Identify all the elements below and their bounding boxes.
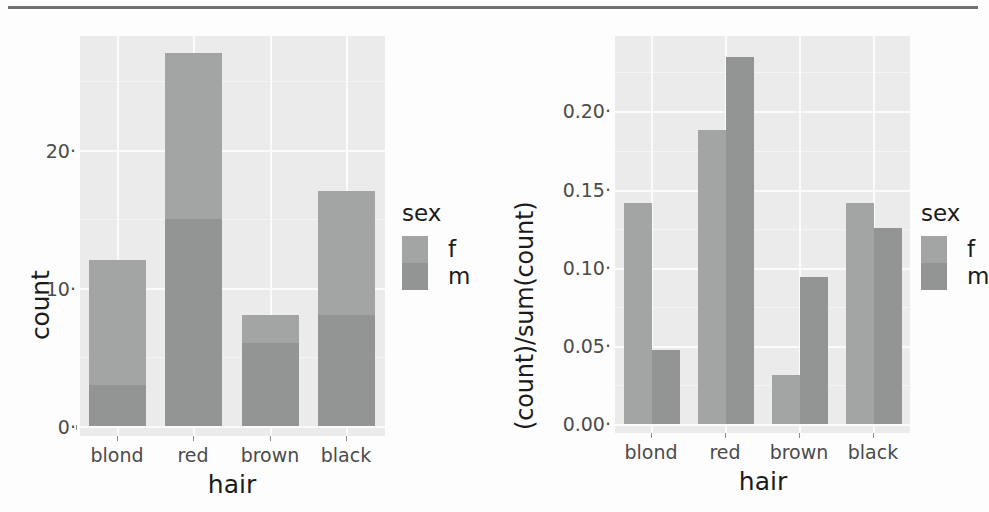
left-x-tick-mark-red <box>193 436 194 441</box>
right-x-tick-mark-blond <box>651 433 652 438</box>
right-legend-label-f: f <box>967 236 989 263</box>
right-x-tick-mark-red <box>725 433 726 438</box>
left-bar-red-m[interactable] <box>165 219 222 426</box>
right-bar-brown-m[interactable] <box>800 277 828 424</box>
right-y-tick-005: 0.05· <box>563 335 611 357</box>
left-y-tick-0: 0· <box>58 416 76 438</box>
right-bar-black-m[interactable] <box>874 228 902 424</box>
left-x-tick-label-red: red <box>177 444 208 466</box>
left-x-tick-label-brown: brown <box>241 444 300 466</box>
top-divider-rule <box>8 6 978 9</box>
left-legend-label-f: f <box>448 236 470 263</box>
left-x-tick-mark-black <box>346 436 347 441</box>
right-x-axis-title: hair <box>739 467 787 496</box>
right-x-tick-label-brown: brown <box>770 441 829 463</box>
right-legend-labels: f m <box>967 236 989 290</box>
right-plot-area <box>615 36 910 433</box>
right-x-tick-mark-brown <box>799 433 800 438</box>
left-bar-black-m[interactable] <box>318 315 375 426</box>
right-gridline-y-0175 <box>615 151 910 152</box>
right-chart-panel: (count)/sum(count) 0.00· 0.05· 0.10· 0.1… <box>493 10 986 510</box>
right-bar-red-m[interactable] <box>726 57 754 424</box>
left-plot-area <box>80 36 385 436</box>
right-x-tick-mark-black <box>873 433 874 438</box>
right-bar-blond-m[interactable] <box>652 350 680 424</box>
left-chart-panel: count 0· 10· 20· <box>0 10 493 510</box>
left-gridline-y-25 <box>80 81 385 82</box>
right-legend-key-m[interactable] <box>921 263 947 290</box>
right-gridline-y-000 <box>615 424 910 426</box>
right-bar-blond-f[interactable] <box>624 203 652 424</box>
left-x-tick-mark-blond <box>117 436 118 441</box>
left-bar-brown-f[interactable] <box>242 315 299 343</box>
right-x-tick-label-red: red <box>709 441 740 463</box>
left-bar-blond-m[interactable] <box>89 385 146 426</box>
right-legend-title: sex <box>921 200 989 226</box>
left-y-tick-labels: 0· 10· 20· <box>0 10 76 510</box>
left-gridline-y-0 <box>80 426 385 428</box>
right-y-tick-010: 0.10· <box>563 257 611 279</box>
right-y-tick-020: 0.20· <box>563 100 611 122</box>
right-bar-brown-f[interactable] <box>772 375 800 424</box>
right-x-tick-label-blond: blond <box>624 441 677 463</box>
left-bar-brown-m[interactable] <box>242 343 299 426</box>
right-gridline-y-015 <box>615 190 910 192</box>
right-legend: sex f m <box>921 200 989 290</box>
left-bar-black-f[interactable] <box>318 191 375 315</box>
right-legend-label-m: m <box>967 263 989 290</box>
right-legend-keys <box>921 236 957 290</box>
right-y-tick-015: 0.15· <box>563 179 611 201</box>
right-gridline-y-020 <box>615 111 910 113</box>
right-bar-red-f[interactable] <box>698 130 726 424</box>
figure-container: count 0· 10· 20· <box>0 10 986 510</box>
right-y-tick-labels: 0.00· 0.05· 0.10· 0.15· 0.20· <box>493 10 611 510</box>
left-y-axis-tick-mark-0 <box>76 425 77 430</box>
left-x-tick-label-blond: blond <box>90 444 143 466</box>
left-legend-title: sex <box>402 200 470 226</box>
left-legend-key-m[interactable] <box>402 263 428 290</box>
left-legend-label-m: m <box>448 263 470 290</box>
left-x-axis-title: hair <box>208 470 256 499</box>
left-x-tick-label-black: black <box>321 444 371 466</box>
right-gridline-y-0225 <box>615 72 910 73</box>
right-bar-black-f[interactable] <box>846 203 874 424</box>
left-legend-key-f[interactable] <box>402 236 428 263</box>
left-bar-red-f[interactable] <box>165 53 222 219</box>
left-legend-keys <box>402 236 438 290</box>
left-legend: sex f m <box>402 200 470 290</box>
left-legend-labels: f m <box>448 236 470 290</box>
left-gridline-y-20 <box>80 150 385 152</box>
right-y-tick-000: 0.00· <box>563 413 611 435</box>
left-y-tick-10: 10· <box>46 278 76 300</box>
right-x-tick-label-black: black <box>848 441 898 463</box>
right-legend-key-f[interactable] <box>921 236 947 263</box>
left-y-tick-20: 20· <box>46 140 76 162</box>
left-bar-blond-f[interactable] <box>89 260 146 385</box>
left-x-tick-mark-brown <box>270 436 271 441</box>
